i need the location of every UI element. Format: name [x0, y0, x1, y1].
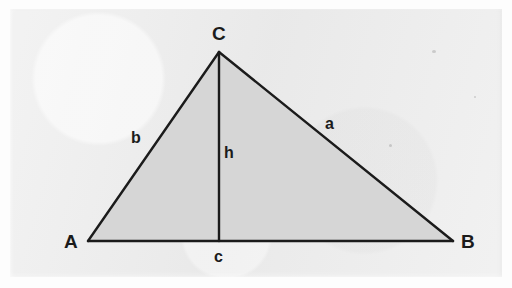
side-label-b: b [131, 130, 141, 146]
triangle-shape [88, 52, 453, 241]
vertex-label-b: B [461, 232, 475, 251]
vertex-label-c: C [212, 24, 226, 43]
side-label-h: h [224, 145, 234, 161]
side-label-a: a [325, 116, 334, 132]
side-label-c: c [214, 249, 223, 265]
vertex-label-a: A [64, 232, 78, 251]
diagram-screenshot: C A B b a h c [0, 0, 512, 288]
